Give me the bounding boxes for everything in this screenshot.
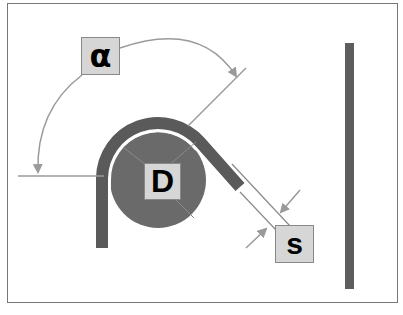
diameter-label: D	[144, 163, 181, 200]
angle-arc-left	[38, 75, 82, 172]
angle-arc-right	[120, 39, 236, 76]
gap-label: s	[275, 225, 314, 263]
wire-outline-lower	[240, 192, 276, 230]
counter-bar	[345, 43, 354, 289]
gap-arrow-lower	[246, 229, 266, 248]
angle-label: α	[81, 37, 120, 75]
bending-diagram	[0, 0, 403, 315]
gap-arrow-upper	[281, 190, 300, 212]
wire-outline-upper	[232, 164, 290, 226]
angled-reference-line	[188, 68, 246, 126]
